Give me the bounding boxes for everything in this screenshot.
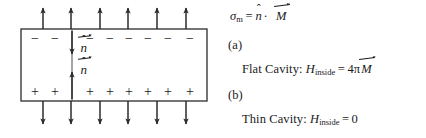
thin-cavity-label: Thin Cavity: <box>242 112 307 126</box>
normal-hat-symbol: ˆn <box>255 9 262 24</box>
diagram-svg: − − − − − − − − + + + + + + + + <box>0 0 215 138</box>
item-marker-a: (a) <box>228 38 242 53</box>
figure-canvas: − − − − − − − − + + + + + + + + <box>0 0 426 138</box>
equals-sign-thin: = <box>339 112 351 126</box>
item-marker-b: (b) <box>228 88 243 103</box>
positive-charge: + <box>164 84 172 99</box>
sigma-subscript: m <box>236 14 243 24</box>
H-subscript-flat: inside <box>315 67 335 77</box>
positive-charge: + <box>51 84 59 99</box>
negative-charge: − <box>125 31 133 46</box>
positive-charge: + <box>106 84 114 99</box>
H-symbol-flat: H <box>306 62 315 76</box>
top-field-arrows <box>43 8 186 29</box>
bottom-field-arrows <box>43 101 186 124</box>
flat-cavity-label: Flat Cavity: <box>242 62 303 76</box>
negative-charge: − <box>106 31 114 46</box>
equals-sign: = <box>243 9 255 23</box>
negative-charge: − <box>31 31 39 46</box>
equation-thin-cavity: Thin Cavity: Hinside=0 <box>242 112 358 127</box>
thin-cavity-value: 0 <box>352 112 358 126</box>
H-subscript-thin: inside <box>319 117 339 127</box>
magnetization-vector-symbol: M <box>275 9 288 24</box>
equation-column: σm=ˆn· M (a) Flat Cavity: Hinside=4πM (b… <box>228 0 426 138</box>
magnetization-vector-flat: M <box>360 62 373 77</box>
positive-charge-row: + + + + + + + + <box>31 84 194 99</box>
negative-charge-row: − − − − − − − − <box>31 31 194 46</box>
positive-charge: + <box>144 84 152 99</box>
normal-label-upper: ˆn <box>79 40 89 56</box>
slab-rectangle <box>21 29 207 101</box>
equals-sign-flat: = <box>335 62 347 76</box>
normal-label-lower: ˆn <box>79 62 89 78</box>
dot-product-operator: · <box>262 9 268 23</box>
positive-charge: + <box>125 84 133 99</box>
equation-flat-cavity: Flat Cavity: Hinside=4πM <box>242 62 373 77</box>
coefficient-four-pi: 4π <box>347 62 360 76</box>
positive-charge: + <box>31 84 39 99</box>
negative-charge: − <box>51 31 59 46</box>
negative-charge: − <box>164 31 172 46</box>
H-symbol-thin: H <box>310 112 319 126</box>
positive-charge: + <box>186 84 194 99</box>
negative-charge: − <box>144 31 152 46</box>
positive-charge: + <box>86 84 94 99</box>
magnetized-slab-diagram: − − − − − − − − + + + + + + + + <box>0 0 215 138</box>
negative-charge: − <box>186 31 194 46</box>
equation-surface-charge: σm=ˆn· M <box>230 9 287 24</box>
